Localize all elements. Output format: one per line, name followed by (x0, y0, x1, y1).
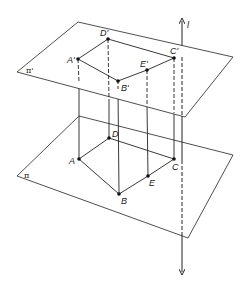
label-b: B (121, 196, 127, 206)
plane-pi (17, 116, 233, 238)
label-plane-pi-prime: π' (26, 66, 33, 75)
label-a-prime: A' (66, 55, 75, 65)
projector-e (147, 104, 148, 176)
point-c-prime (172, 56, 176, 60)
point-a (77, 157, 81, 161)
point-b-prime (116, 79, 120, 83)
label-c: C (172, 162, 179, 172)
label-d-prime: D' (100, 28, 108, 38)
label-line-l: l (187, 20, 190, 30)
label-e-prime: E' (140, 59, 148, 69)
point-d (107, 136, 111, 140)
point-c (172, 157, 176, 161)
lower-polygon (79, 138, 174, 194)
label-d: D (112, 129, 119, 139)
label-plane-pi: π (24, 171, 29, 180)
label-e: E (149, 178, 156, 188)
point-a-prime (76, 57, 80, 61)
projector-b (118, 90, 119, 194)
label-a: A (68, 156, 75, 166)
plane-pi-prime (17, 22, 233, 117)
label-b-prime: B' (121, 83, 129, 93)
label-c-prime: C' (170, 46, 178, 56)
projection-diagram: π' π l A' B' C' D' E' A B C D E (0, 0, 246, 284)
